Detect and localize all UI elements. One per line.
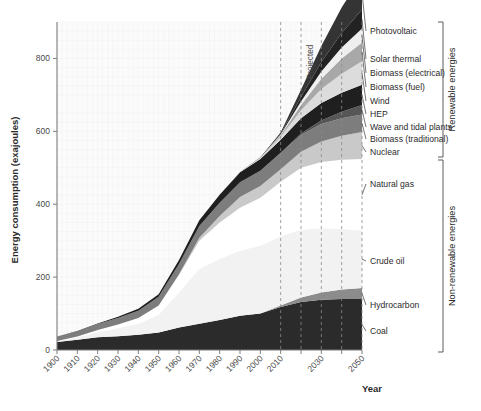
y-tick-200: 200: [36, 272, 50, 282]
legend-label-biomass-fuel[interactable]: Biomass (fuel): [370, 82, 425, 92]
y-tick-400: 400: [36, 199, 50, 209]
legend-label-solar-thermal[interactable]: Solar thermal: [370, 54, 421, 64]
legend-label-nuclear[interactable]: Nuclear: [370, 147, 400, 157]
renewable-bracket-label: Renewable energies: [447, 47, 457, 131]
legend-label-coal[interactable]: Coal: [370, 326, 388, 336]
legend-label-wave-and-tidal-plants[interactable]: Wave and tidal plants: [370, 122, 452, 132]
x-axis-title: Year: [362, 383, 382, 394]
legend-label-wind[interactable]: Wind: [370, 96, 390, 106]
non-renewable-bracket-label: Non-renewable energies: [447, 206, 457, 307]
legend-label-crude-oil[interactable]: Crude oil: [370, 256, 404, 266]
legend-label-natural-gas[interactable]: Natural gas: [370, 179, 414, 189]
legend-label-biomass-traditional[interactable]: Biomass (traditional): [370, 134, 448, 144]
legend-label-photovoltaic[interactable]: Photovoltaic: [370, 26, 418, 36]
y-tick-0: 0: [45, 345, 50, 355]
energy-consumption-area-chart: 0200400600800190019101920193019401950196…: [0, 0, 481, 411]
y-axis-title: Energy consumption (exajoules): [9, 117, 20, 264]
chart-root: 0200400600800190019101920193019401950196…: [0, 0, 481, 411]
y-tick-800: 800: [36, 53, 50, 63]
projected-annotation: Projected: [306, 44, 315, 79]
y-tick-600: 600: [36, 126, 50, 136]
legend-label-biomass-electrical[interactable]: Biomass (electrical): [370, 68, 445, 78]
legend-label-hep[interactable]: HEP: [370, 109, 388, 119]
legend-label-hydrocarbon[interactable]: Hydrocarbon: [370, 300, 419, 310]
